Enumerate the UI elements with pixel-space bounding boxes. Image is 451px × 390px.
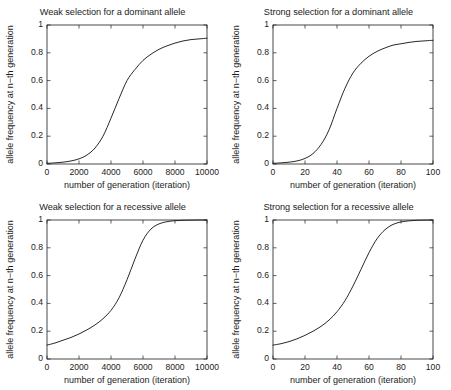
y-axis-tick-label: 0.8 bbox=[14, 243, 43, 252]
y-axis-tick-label: 0.4 bbox=[14, 298, 43, 307]
y-axis-tick-label: 1 bbox=[240, 215, 269, 224]
y-axis-tick-label: 0.2 bbox=[240, 326, 269, 335]
figure-canvas: Weak selection for a dominant allele00.2… bbox=[0, 0, 451, 390]
axes-box bbox=[47, 25, 207, 164]
data-curve bbox=[47, 220, 207, 345]
y-axis-tick-label: 0 bbox=[240, 354, 269, 363]
y-axis-label: allele frequency at n−th generation bbox=[231, 23, 241, 166]
y-axis-label: allele frequency at n−th generation bbox=[231, 218, 241, 361]
x-axis-label: number of generation (iteration) bbox=[47, 375, 207, 385]
x-axis-tick-label: 10000 bbox=[185, 363, 229, 372]
y-axis-tick-label: 0.6 bbox=[14, 76, 43, 85]
chart-panel-strong-recessive: Strong selection for a recessive allele0… bbox=[226, 195, 451, 390]
x-axis-tick-label: 100 bbox=[411, 363, 451, 372]
y-axis-tick-label: 0.6 bbox=[14, 271, 43, 280]
chart-panel-weak-recessive: Weak selection for a recessive allele00.… bbox=[0, 195, 225, 390]
x-axis-label: number of generation (iteration) bbox=[273, 375, 433, 385]
chart-panel-strong-dominant: Strong selection for a dominant allele00… bbox=[226, 0, 451, 195]
y-axis-label: allele frequency at n−th generation bbox=[5, 218, 15, 361]
x-axis-label: number of generation (iteration) bbox=[273, 180, 433, 190]
x-axis-tick-label: 10000 bbox=[185, 168, 229, 177]
y-axis-tick-label: 0.2 bbox=[14, 326, 43, 335]
data-curve bbox=[47, 38, 207, 163]
y-axis-tick-label: 0.4 bbox=[14, 103, 43, 112]
x-axis-label: number of generation (iteration) bbox=[47, 180, 207, 190]
y-axis-tick-label: 0.8 bbox=[240, 243, 269, 252]
y-axis-tick-label: 0.4 bbox=[240, 298, 269, 307]
y-axis-tick-label: 1 bbox=[14, 20, 43, 29]
chart-panel-weak-dominant: Weak selection for a dominant allele00.2… bbox=[0, 0, 225, 195]
y-axis-tick-label: 0.8 bbox=[240, 48, 269, 57]
y-axis-tick-label: 1 bbox=[14, 215, 43, 224]
data-curve bbox=[273, 220, 433, 345]
axes-box bbox=[273, 25, 433, 164]
data-curve bbox=[273, 40, 433, 163]
y-axis-tick-label: 0.4 bbox=[240, 103, 269, 112]
y-axis-tick-label: 0 bbox=[14, 354, 43, 363]
y-axis-tick-label: 0 bbox=[14, 159, 43, 168]
axes-box bbox=[47, 220, 207, 359]
y-axis-tick-label: 0.8 bbox=[14, 48, 43, 57]
y-axis-tick-label: 0.6 bbox=[240, 271, 269, 280]
y-axis-label: allele frequency at n−th generation bbox=[5, 23, 15, 166]
y-axis-tick-label: 0 bbox=[240, 159, 269, 168]
y-axis-tick-label: 0.2 bbox=[14, 131, 43, 140]
axes-box bbox=[273, 220, 433, 359]
y-axis-tick-label: 1 bbox=[240, 20, 269, 29]
x-axis-tick-label: 100 bbox=[411, 168, 451, 177]
y-axis-tick-label: 0.2 bbox=[240, 131, 269, 140]
y-axis-tick-label: 0.6 bbox=[240, 76, 269, 85]
